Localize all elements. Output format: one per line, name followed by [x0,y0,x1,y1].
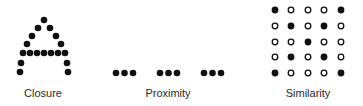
proximity-dot [130,70,137,77]
similarity-label: Similarity [286,87,331,99]
closure-dot [65,69,72,76]
similarity-filled-dot [338,7,345,14]
similarity-hollow-dot [338,54,344,60]
similarity-filled-dot [288,23,295,30]
similarity-hollow-dot [321,39,327,45]
closure-dot [35,25,42,32]
similarity-panel [272,7,345,77]
similarity-hollow-dot [321,70,327,76]
proximity-panel [113,70,225,77]
closure-label: Closure [24,87,62,99]
similarity-filled-dot [272,7,279,14]
closure-dot [20,50,27,57]
similarity-hollow-dot [288,7,294,13]
proximity-dot [174,70,181,77]
closure-dot [41,50,48,57]
similarity-hollow-dot [338,23,344,29]
closure-dot [29,33,36,40]
similarity-hollow-dot [305,54,311,60]
similarity-hollow-dot [272,54,278,60]
closure-dot [53,33,60,40]
similarity-hollow-dot [321,7,327,13]
closure-panel [17,17,72,76]
proximity-dot [165,70,172,77]
similarity-filled-dot [272,70,279,77]
closure-dot [24,41,31,48]
similarity-hollow-dot [305,7,311,13]
similarity-hollow-dot [338,39,344,45]
closure-dot [48,50,55,57]
similarity-filled-dot [321,54,328,61]
similarity-hollow-dot [305,70,311,76]
closure-dot [18,60,25,67]
closure-dot [62,50,69,57]
closure-dot [27,50,34,57]
similarity-hollow-dot [288,39,294,45]
similarity-hollow-dot [272,23,278,29]
gestalt-principles-diagram: Closure Proximity Similarity [0,0,363,106]
closure-dot [55,50,62,57]
proximity-dot [113,70,120,77]
similarity-hollow-dot [288,70,294,76]
closure-dot [41,17,48,24]
closure-dot [58,41,65,48]
proximity-dot [218,70,225,77]
proximity-dot [201,70,208,77]
closure-dot [64,60,71,67]
closure-dot [17,69,24,76]
proximity-dot [121,70,128,77]
proximity-dot [157,70,164,77]
proximity-dot [209,70,216,77]
similarity-filled-dot [321,23,328,30]
proximity-label: Proximity [145,87,191,99]
similarity-filled-dot [305,39,312,46]
similarity-hollow-dot [272,39,278,45]
similarity-hollow-dot [305,23,311,29]
similarity-filled-dot [338,70,345,77]
closure-dot [47,25,54,32]
similarity-filled-dot [288,54,295,61]
closure-dot [34,50,41,57]
